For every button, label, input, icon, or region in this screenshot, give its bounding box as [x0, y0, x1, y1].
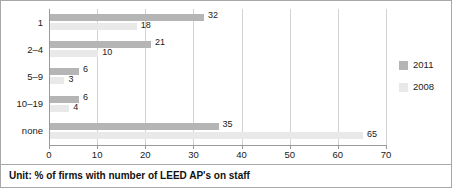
bar-group: 64 [49, 91, 386, 118]
chart-figure: 3218211063643565 12–45–910–19none 010203… [0, 0, 452, 188]
x-tick-label: 40 [236, 149, 247, 160]
category-label: 10–19 [17, 99, 43, 109]
bar-group: 3565 [49, 118, 386, 145]
x-tick-label: 10 [92, 149, 103, 160]
bar-value-label: 35 [223, 120, 233, 129]
x-axis-line [49, 145, 386, 146]
bar-value-label: 32 [208, 11, 218, 20]
bar-2008 [50, 105, 69, 112]
bar-value-label: 10 [102, 48, 112, 57]
chart-caption: Unit: % of firms with number of LEED AP'… [9, 169, 250, 183]
category-axis-labels: 12–45–910–19none [1, 9, 43, 145]
bar-2008 [50, 77, 64, 84]
bar-value-label: 6 [83, 93, 88, 102]
bar-value-label: 6 [83, 65, 88, 74]
category-label: 1 [38, 18, 43, 28]
bar-value-label: 65 [367, 130, 377, 139]
category-label: 5–9 [27, 72, 43, 82]
category-label: 2–4 [27, 45, 43, 55]
legend-item: 2008 [399, 81, 449, 103]
bar-group: 63 [49, 63, 386, 90]
bar-group: 3218 [49, 9, 386, 36]
legend-swatch [399, 83, 408, 92]
bar-2008 [50, 23, 137, 30]
bar-2011 [50, 123, 219, 130]
x-tick-label: 20 [140, 149, 151, 160]
legend-label: 2011 [413, 59, 433, 71]
x-tick-label: 70 [381, 149, 392, 160]
bar-2011 [50, 41, 151, 48]
bar-2008 [50, 50, 98, 57]
bar-value-label: 3 [68, 75, 73, 84]
bar-value-label: 18 [141, 21, 151, 30]
x-tick-label: 30 [188, 149, 199, 160]
gridline [386, 9, 387, 145]
bar-2011 [50, 14, 204, 21]
bar-value-label: 21 [155, 38, 165, 47]
x-axis-tick-labels: 010203040506070 [1, 149, 452, 163]
caption-divider [1, 164, 451, 165]
category-label: none [22, 126, 43, 136]
legend-item: 2011 [399, 59, 449, 81]
x-tick-label: 0 [46, 149, 51, 160]
x-tick-label: 60 [333, 149, 344, 160]
chart-legend: 20112008 [399, 59, 449, 103]
x-tick-label: 50 [284, 149, 295, 160]
bar-2008 [50, 132, 363, 139]
bar-2011 [50, 68, 79, 75]
bar-value-label: 4 [73, 103, 78, 112]
legend-label: 2008 [413, 81, 434, 93]
plot-area: 3218211063643565 [49, 9, 386, 145]
legend-swatch [399, 61, 408, 70]
bar-group: 2110 [49, 36, 386, 63]
